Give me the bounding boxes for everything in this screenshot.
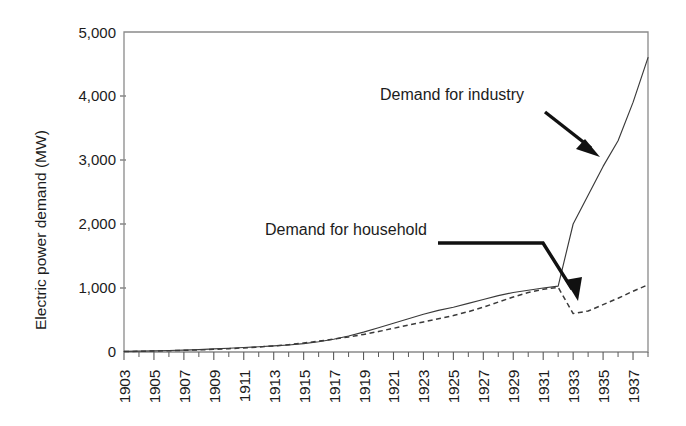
x-tick-label: 1925: [445, 370, 462, 403]
annotation-arrow-household-head: [565, 277, 582, 301]
annotation-arrow-household-shaft: [438, 243, 572, 289]
x-tick-label: 1923: [415, 370, 432, 403]
x-axis-tick-marks: [124, 352, 648, 360]
chart-figure: Electric power demand (MW) 0 1,000 2,000…: [0, 0, 686, 426]
y-axis-tick-marks: [120, 96, 126, 288]
x-tick-label: 1933: [565, 370, 582, 403]
x-tick-label: 1907: [176, 370, 193, 403]
y-tick-label: 3,000: [78, 151, 116, 168]
series-line-demand-for-household: [124, 285, 648, 352]
x-tick-label: 1909: [206, 370, 223, 403]
plot-frame: [124, 32, 648, 352]
x-tick-label: 1919: [356, 370, 373, 403]
x-tick-label: 1935: [595, 370, 612, 403]
x-tick-label: 1905: [146, 370, 163, 403]
annotation-arrow-industry-head: [576, 139, 600, 157]
y-tick-label: 0: [108, 343, 116, 360]
x-tick-label: 1915: [296, 370, 313, 403]
y-axis-tick-labels: 0 1,000 2,000 3,000 4,000 5,000: [78, 24, 116, 360]
x-tick-label: 1929: [505, 370, 522, 403]
x-tick-label: 1911: [236, 370, 253, 402]
x-tick-label: 1927: [475, 370, 492, 403]
x-tick-label: 1903: [116, 370, 133, 403]
annotation-demand-for-industry: Demand for industry: [380, 86, 600, 157]
x-tick-label: 1913: [266, 370, 283, 403]
y-tick-label: 4,000: [78, 87, 116, 104]
y-tick-label: 2,000: [78, 215, 116, 232]
y-tick-label: 1,000: [78, 279, 116, 296]
y-axis-title: Electric power demand (MW): [32, 130, 49, 330]
x-tick-label: 1921: [385, 370, 402, 403]
annotation-label-household: Demand for household: [265, 221, 427, 238]
line-chart: Electric power demand (MW) 0 1,000 2,000…: [0, 0, 686, 426]
annotation-label-industry: Demand for industry: [380, 86, 524, 103]
x-tick-label: 1937: [625, 370, 642, 403]
x-axis-tick-labels: 1903190519071909191119131915191719191921…: [116, 370, 642, 403]
x-tick-label: 1931: [535, 370, 552, 403]
x-tick-label: 1917: [326, 370, 343, 403]
y-tick-label: 5,000: [78, 24, 116, 41]
